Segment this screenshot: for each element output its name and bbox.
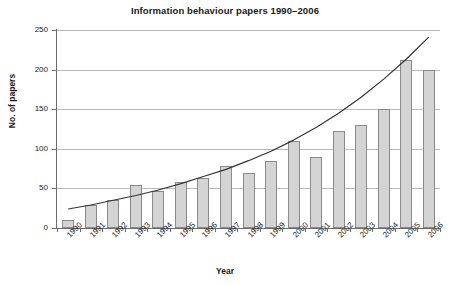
x-axis-tick-label: 1994 — [155, 220, 174, 239]
chart-container: Information behaviour papers 1990–2006 0… — [0, 0, 450, 285]
x-axis-title: Year — [0, 266, 450, 276]
x-axis-group: 1990199119921993199419951996199719981999… — [0, 0, 450, 285]
x-axis-tick-label: 2001 — [313, 220, 332, 239]
x-axis-tick-label: 1995 — [178, 220, 197, 239]
x-axis-tick-label: 1990 — [65, 220, 84, 239]
x-axis-tick-label: 1998 — [246, 220, 265, 239]
x-axis-tick-label: 1999 — [268, 220, 287, 239]
x-axis-tick-label: 2005 — [403, 220, 422, 239]
x-axis-tick-label: 2006 — [426, 220, 445, 239]
x-axis-tick-label: 2000 — [291, 220, 310, 239]
x-axis-tick-label: 1993 — [133, 220, 152, 239]
x-axis-tick-label: 1997 — [223, 220, 242, 239]
x-axis-tick — [57, 228, 58, 232]
x-axis-tick-label: 1991 — [88, 220, 107, 239]
x-axis-tick-label: 2002 — [336, 220, 355, 239]
x-axis-tick-label: 2004 — [381, 220, 400, 239]
x-axis-tick-label: 1996 — [200, 220, 219, 239]
x-axis-tick-label: 2003 — [358, 220, 377, 239]
x-axis-tick-label: 1992 — [110, 220, 129, 239]
